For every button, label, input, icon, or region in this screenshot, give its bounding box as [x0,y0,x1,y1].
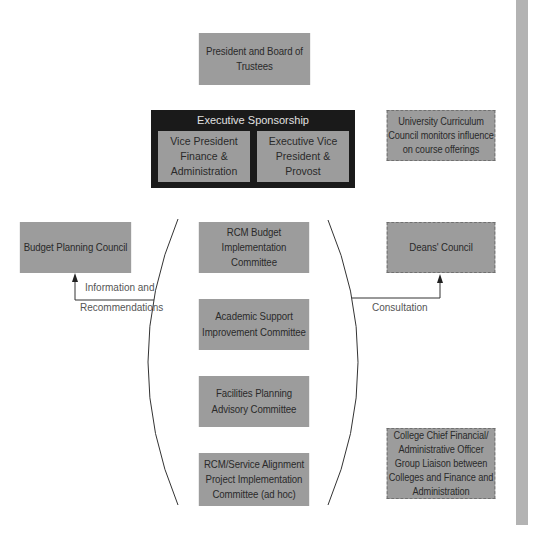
committee-box-rcm-budget: RCM Budget Implementation Committee [199,222,309,273]
committee-label: Facilities Planning Advisory Committee [199,386,309,416]
president-board-label: President and Board of Trustees [199,44,310,74]
committee-label: RCM/Service Alignment Project Implementa… [199,457,309,501]
page-edge-bar [516,0,528,525]
executive-sponsorship-box: Executive Sponsorship Vice President Fin… [151,110,355,188]
executive-sponsorship-title: Executive Sponsorship [151,114,355,126]
info-label-line1: Information and [85,282,155,293]
committee-label: Academic Support Improvement Committee [199,309,309,339]
budget-planning-council-box: Budget Planning Council [20,222,131,273]
committee-label: RCM Budget Implementation Committee [199,225,309,271]
college-cfo-group-label: College Chief Financial/ Administrative … [388,429,495,499]
committee-box-rcm-service-alignment: RCM/Service Alignment Project Implementa… [199,453,309,506]
info-label-line2: Recommendations [80,302,163,313]
evp-provost-box: Executive Vice President & Provost [257,131,349,182]
vp-finance-label: Vice President Finance & Administration [158,134,250,180]
right-bracket-arc [328,220,358,505]
budget-planning-council-label: Budget Planning Council [24,240,128,255]
consultation-arrow [352,277,440,298]
deans-council-box: Deans' Council [387,222,496,273]
committee-box-academic-support: Academic Support Improvement Committee [199,299,309,350]
president-board-box: President and Board of Trustees [199,33,310,85]
committee-box-facilities-planning: Facilities Planning Advisory Committee [199,376,309,427]
university-curriculum-council-label: University Curriculum Council monitors i… [388,115,495,157]
left-bracket-arc [148,219,178,505]
university-curriculum-council-box: University Curriculum Council monitors i… [387,110,496,161]
evp-provost-label: Executive Vice President & Provost [257,134,349,180]
deans-council-label: Deans' Council [409,240,472,255]
college-cfo-group-box: College Chief Financial/ Administrative … [387,428,496,499]
vp-finance-box: Vice President Finance & Administration [158,131,250,182]
consultation-label: Consultation [372,302,428,313]
